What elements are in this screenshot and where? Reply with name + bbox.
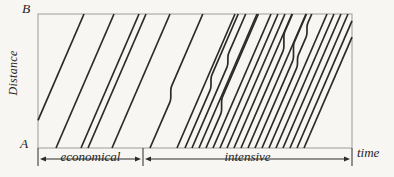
endpoint-label-b: B [18, 2, 34, 16]
region-label-economical: economical [38, 150, 143, 163]
train-lines [38, 14, 352, 148]
region-label-intensive: intensive [143, 150, 352, 163]
train-schedule-diagram: B A Distance economical intensive time [0, 0, 394, 177]
x-axis-label: time [357, 146, 379, 159]
endpoint-label-a: A [16, 137, 32, 151]
y-axis-label: Distance [7, 50, 19, 95]
